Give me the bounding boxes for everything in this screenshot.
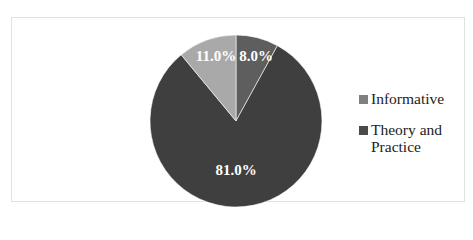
legend: Informative Theory and Practice (359, 90, 471, 169)
legend-item-informative: Informative (359, 90, 471, 107)
legend-swatch (359, 95, 368, 104)
legend-item-theory-and-practice: Theory and Practice (359, 121, 471, 155)
legend-label: Theory and Practice (371, 121, 471, 155)
slice-data-label: 81.0% (215, 162, 256, 178)
legend-swatch (359, 126, 368, 135)
slice-data-label: 11.0% (196, 48, 236, 64)
legend-label: Informative (371, 90, 471, 107)
slice-data-label: 8.0% (239, 48, 273, 64)
